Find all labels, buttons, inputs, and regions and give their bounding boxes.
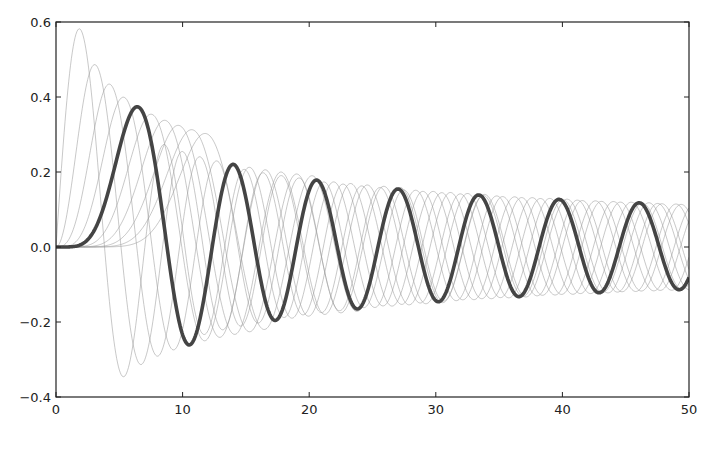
y-tick-label: 0.4 — [30, 90, 51, 105]
y-tick-label: −0.4 — [19, 390, 51, 405]
x-tick-label: 50 — [681, 402, 698, 417]
x-tick-label: 0 — [52, 402, 60, 417]
figure-background — [0, 0, 712, 454]
bessel-chart: 01020304050 −0.4−0.20.00.20.40.6 — [0, 0, 712, 454]
x-tick-label: 40 — [554, 402, 571, 417]
y-tick-label: 0.0 — [30, 240, 51, 255]
x-tick-label: 20 — [301, 402, 318, 417]
y-tick-label: 0.2 — [30, 165, 51, 180]
x-tick-label: 10 — [174, 402, 191, 417]
x-tick-label: 30 — [428, 402, 445, 417]
y-tick-label: 0.6 — [30, 15, 51, 30]
y-tick-label: −0.2 — [19, 315, 51, 330]
